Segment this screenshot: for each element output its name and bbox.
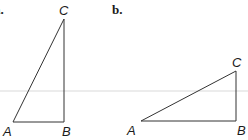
panel-a: a. A B C	[0, 2, 71, 139]
triangle-a-vertex-a: A	[2, 124, 12, 139]
triangle-a-vertex-b: B	[62, 124, 71, 139]
triangle-a	[13, 19, 64, 122]
triangle-b-vertex-b: B	[237, 123, 246, 138]
triangle-b	[141, 71, 236, 121]
triangle-b-vertex-c: C	[232, 55, 242, 70]
triangle-b-vertex-a: A	[126, 123, 136, 138]
triangle-a-vertex-c: C	[59, 3, 69, 18]
panel-b-label: b.	[112, 2, 122, 17]
triangles-diagram: a. A B C b. A B C	[0, 0, 248, 140]
panel-b: b. A B C	[112, 2, 246, 138]
panel-a-label: a.	[0, 2, 4, 17]
